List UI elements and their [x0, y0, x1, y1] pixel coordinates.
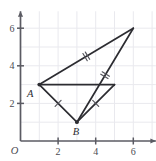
x-axis-arrowhead — [150, 138, 156, 143]
grid-lines — [21, 11, 156, 141]
y-axis-tick-label: 6 — [10, 23, 15, 34]
coordinate-plane-figure: 246246OAB — [0, 0, 156, 161]
vertex-dot-B — [75, 120, 79, 124]
y-axis-arrowhead — [18, 11, 23, 17]
point-label-B: B — [73, 126, 80, 137]
origin-label: O — [11, 145, 19, 156]
x-axis-tick-label: 2 — [56, 146, 61, 157]
x-axis-tick-label: 6 — [131, 146, 136, 157]
figure-text-labels: 246246OAB — [10, 23, 136, 157]
x-axis-tick-label: 4 — [93, 146, 98, 157]
axes — [18, 11, 156, 143]
y-axis-tick-label: 4 — [10, 60, 15, 71]
plot-canvas: 246246OAB — [0, 0, 156, 161]
point-label-A: A — [26, 88, 34, 99]
segment-B-C — [77, 28, 133, 122]
triangle-segments — [39, 28, 133, 122]
y-axis-tick-label: 2 — [10, 98, 15, 109]
segment-A-C — [39, 28, 133, 84]
vertex-dot-A — [37, 83, 41, 87]
